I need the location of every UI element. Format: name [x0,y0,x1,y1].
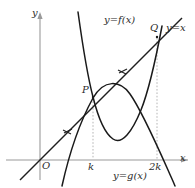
identity-line-label: y=x [166,22,186,33]
identity-line [20,18,182,180]
x-axis-label: x [180,152,186,163]
point-q-label: Q [150,22,158,33]
origin-label: O [42,160,50,171]
curve-g-label: y=g(x) [113,170,147,181]
y-axis-arrow [37,12,42,19]
tick-label-k: k [88,161,94,172]
curve-f-label: y=f(x) [104,14,135,25]
y-axis-label: y [32,7,38,18]
point-q-marker [156,36,158,38]
point-p-label: P [82,84,89,95]
point-p-marker [92,96,94,98]
tick-label-2k: 2k [149,161,161,172]
math-figure: y x O k 2k P Q y=f(x) y=x y=g(x) [0,0,195,188]
